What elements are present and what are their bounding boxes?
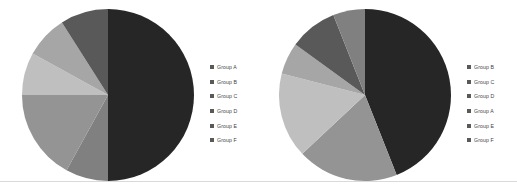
legend-swatch-icon	[210, 124, 214, 128]
legend-item-label: Group B	[474, 64, 494, 70]
legend-item[interactable]: Group B	[210, 75, 258, 90]
legend-swatch-icon	[467, 109, 471, 113]
legend-item-label: Group C	[474, 79, 494, 85]
legend-swatch-icon	[210, 94, 214, 98]
pie-chart-right[interactable]	[278, 8, 452, 182]
legend-swatch-icon	[467, 65, 471, 69]
pie-chart-left-legend: Group AGroup BGroup CGroup DGroup EGroup…	[210, 60, 258, 148]
legend-swatch-icon	[467, 94, 471, 98]
pie-chart-right-legend: Group BGroup CGroup DGroup AGroup EGroup…	[467, 60, 515, 148]
pie-chart-right-panel: Group BGroup CGroup DGroup AGroup EGroup…	[257, 0, 514, 178]
legend-item[interactable]: Group F	[467, 133, 515, 148]
legend-item-label: Group F	[474, 137, 494, 143]
legend-item-label: Group A	[217, 64, 237, 70]
legend-item[interactable]: Group B	[467, 60, 515, 75]
pie-chart-left-panel: Group AGroup BGroup CGroup DGroup EGroup…	[0, 0, 257, 178]
legend-item[interactable]: Group E	[467, 118, 515, 133]
legend-swatch-icon	[467, 124, 471, 128]
legend-swatch-icon	[210, 109, 214, 113]
pie-slice[interactable]	[108, 9, 194, 181]
legend-item[interactable]: Group D	[467, 89, 515, 104]
pie-chart-left-svg	[21, 8, 195, 182]
legend-item[interactable]: Group D	[210, 104, 258, 119]
legend-item-label: Group F	[217, 137, 237, 143]
charts-container: Group AGroup BGroup CGroup DGroup EGroup…	[0, 0, 517, 178]
legend-swatch-icon	[467, 138, 471, 142]
legend-swatch-icon	[210, 65, 214, 69]
legend-item-label: Group E	[217, 123, 237, 129]
pie-chart-left[interactable]	[21, 8, 195, 182]
legend-item[interactable]: Group C	[467, 75, 515, 90]
legend-item[interactable]: Group F	[210, 133, 258, 148]
legend-item-label: Group A	[474, 108, 494, 114]
legend-item-label: Group E	[474, 123, 494, 129]
legend-item[interactable]: Group A	[467, 104, 515, 119]
legend-item-label: Group C	[217, 93, 237, 99]
legend-item-label: Group B	[217, 79, 237, 85]
legend-item[interactable]: Group C	[210, 89, 258, 104]
legend-item[interactable]: Group E	[210, 118, 258, 133]
pie-chart-right-svg	[278, 8, 452, 182]
legend-item-label: Group D	[217, 108, 237, 114]
legend-swatch-icon	[467, 80, 471, 84]
legend-swatch-icon	[210, 138, 214, 142]
legend-item-label: Group D	[474, 93, 494, 99]
footer-area	[0, 182, 517, 195]
legend-item[interactable]: Group A	[210, 60, 258, 75]
legend-swatch-icon	[210, 80, 214, 84]
